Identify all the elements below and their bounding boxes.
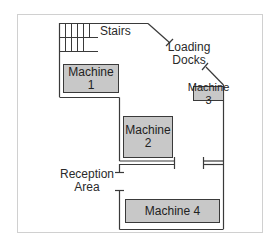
machine-4: Machine 4: [125, 199, 220, 223]
reception-line2: Area: [58, 181, 116, 194]
stairs-icon: [60, 24, 99, 52]
loading-docks-line2: Docks: [165, 54, 213, 67]
machine-3-label: Machine 3: [188, 81, 230, 107]
reception-area-label: Reception Area: [58, 168, 116, 194]
machine-2-line2: 2: [125, 137, 170, 150]
loading-docks-label: Loading Docks: [165, 41, 213, 67]
floor-plan-diagram: Stairs Loading Docks Reception Area Mach…: [0, 0, 275, 245]
stairs-label: Stairs: [100, 25, 131, 38]
machine-1-line1: Machine: [68, 66, 113, 79]
machine-3: Machine 3: [193, 86, 224, 101]
machine-2: Machine 2: [123, 116, 173, 158]
machine-4-label: Machine 4: [145, 205, 200, 218]
machine-1: Machine 1: [63, 64, 119, 93]
machine-1-line2: 1: [68, 79, 113, 92]
